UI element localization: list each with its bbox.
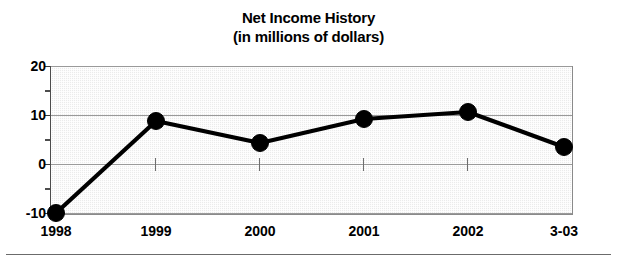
y-axis-label-minus-10: -10 [2,206,46,220]
x-axis-label-2001: 2001 [328,224,400,239]
chart-subtitle: (in millions of dollars) [0,27,617,46]
x-axis-label-2002: 2002 [432,224,504,239]
y-axis-label-10: 10 [2,108,46,122]
y-axis-label-20: 20 [2,59,46,73]
x-axis-label-1998: 1998 [20,224,92,239]
plot-area [50,66,573,215]
chart-title: Net Income History [0,8,617,27]
bottom-divider [6,254,611,255]
net-income-history-chart-figure: Net Income History (in millions of dolla… [0,0,617,264]
chart-title-block: Net Income History (in millions of dolla… [0,8,617,46]
x-axis-label-2000: 2000 [224,224,296,239]
y-axis-label-0: 0 [2,157,46,171]
x-axis-label-3-03: 3-03 [528,224,600,239]
x-axis-label-1999: 1999 [120,224,192,239]
